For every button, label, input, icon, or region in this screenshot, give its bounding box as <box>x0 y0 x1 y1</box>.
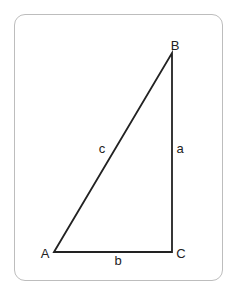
triangle-abc <box>54 53 172 252</box>
side-label-c: c <box>99 141 106 156</box>
vertex-label-b: B <box>171 38 180 53</box>
vertex-label-c: C <box>176 246 185 261</box>
side-label-a: a <box>176 141 184 156</box>
triangle-diagram: A B C a b c <box>0 0 233 292</box>
vertex-label-a: A <box>41 246 50 261</box>
side-label-b: b <box>114 253 121 268</box>
